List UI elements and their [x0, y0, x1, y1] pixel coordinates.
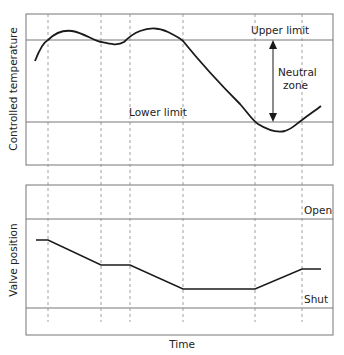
neutral-zone-label-line2: zone: [283, 79, 308, 91]
valve-axis-label: Valve position: [7, 223, 19, 296]
open-label: Open: [304, 204, 332, 216]
temperature-axis-label: Controlled temperature: [7, 27, 19, 150]
x-axis-label: Time: [168, 338, 195, 350]
shut-label: Shut: [304, 293, 328, 305]
neutral-zone-arrow: [269, 40, 277, 122]
valve-position-curve: [36, 240, 321, 289]
neutral-zone-label-line1: Neutral: [278, 66, 317, 78]
lower-limit-label: Lower limit: [129, 106, 187, 118]
valve-panel-frame: [26, 185, 333, 335]
diagram: Upper limit Lower limit Neutral zone Ope…: [0, 0, 344, 355]
upper-limit-label: Upper limit: [251, 24, 309, 36]
event-markers: [48, 14, 302, 322]
